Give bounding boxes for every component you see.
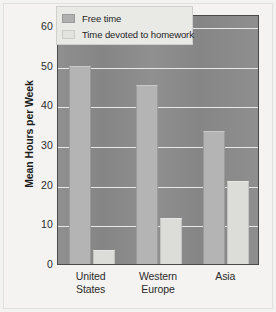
bar bbox=[203, 131, 225, 264]
category-label-line: Europe bbox=[124, 283, 191, 296]
y-axis-tick-label: 30 bbox=[25, 139, 53, 151]
x-axis-category-labels: UnitedStatesWesternEuropeAsia bbox=[57, 270, 259, 306]
y-axis-tick-labels: 0102030405060 bbox=[24, 0, 53, 312]
bar bbox=[160, 218, 182, 264]
y-axis-tick-label: 60 bbox=[25, 20, 53, 32]
legend-label: Time devoted to homework bbox=[82, 29, 194, 40]
bar bbox=[69, 66, 91, 264]
category-label-line: States bbox=[57, 283, 124, 296]
legend-item: Time devoted to homework bbox=[62, 27, 187, 42]
category-label-line: United bbox=[57, 270, 124, 283]
x-axis-category-label: Asia bbox=[192, 270, 259, 306]
bar bbox=[93, 250, 115, 264]
chart-figure: Mean Hours per Week 0102030405060 Free t… bbox=[0, 0, 276, 312]
y-axis-tick-label: 10 bbox=[25, 218, 53, 230]
y-axis-tick-label: 20 bbox=[25, 179, 53, 191]
legend-swatch-icon bbox=[62, 30, 75, 39]
category-label-line: Western bbox=[124, 270, 191, 283]
legend-swatch-icon bbox=[62, 14, 75, 23]
y-axis-tick-label: 40 bbox=[25, 99, 53, 111]
bar bbox=[227, 181, 249, 264]
x-axis-category-label: UnitedStates bbox=[57, 270, 124, 306]
legend-item: Free time bbox=[62, 11, 187, 26]
chart-legend: Free timeTime devoted to homework bbox=[56, 6, 193, 45]
legend-label: Free time bbox=[82, 13, 121, 24]
plot-area bbox=[57, 15, 259, 265]
bar bbox=[136, 85, 158, 264]
category-label-line: Asia bbox=[192, 270, 259, 283]
y-axis-tick-label: 50 bbox=[25, 60, 53, 72]
y-axis-tick-label: 0 bbox=[25, 258, 53, 270]
x-axis-category-label: WesternEurope bbox=[124, 270, 191, 306]
